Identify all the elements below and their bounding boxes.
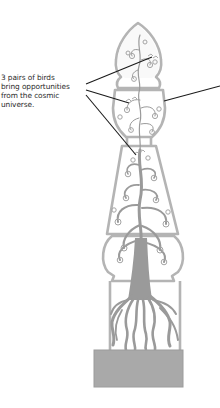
annotation-caption: 3 pairs of birds bring opportunities fro…	[1, 73, 91, 109]
leader-line-right	[164, 86, 220, 101]
caption-line-4: universe.	[1, 100, 91, 109]
leader-line-cup	[86, 90, 129, 103]
tree-of-life-figure	[0, 0, 220, 408]
bird-pair-cup	[126, 97, 137, 101]
roots	[111, 296, 178, 350]
neck	[127, 137, 151, 146]
caption-line-2: bring opportunities	[1, 82, 91, 91]
base-slab	[94, 350, 183, 387]
caption-line-3: from the cosmic	[1, 91, 91, 100]
trunk	[128, 238, 152, 300]
caption-line-1: 3 pairs of birds	[1, 73, 91, 82]
